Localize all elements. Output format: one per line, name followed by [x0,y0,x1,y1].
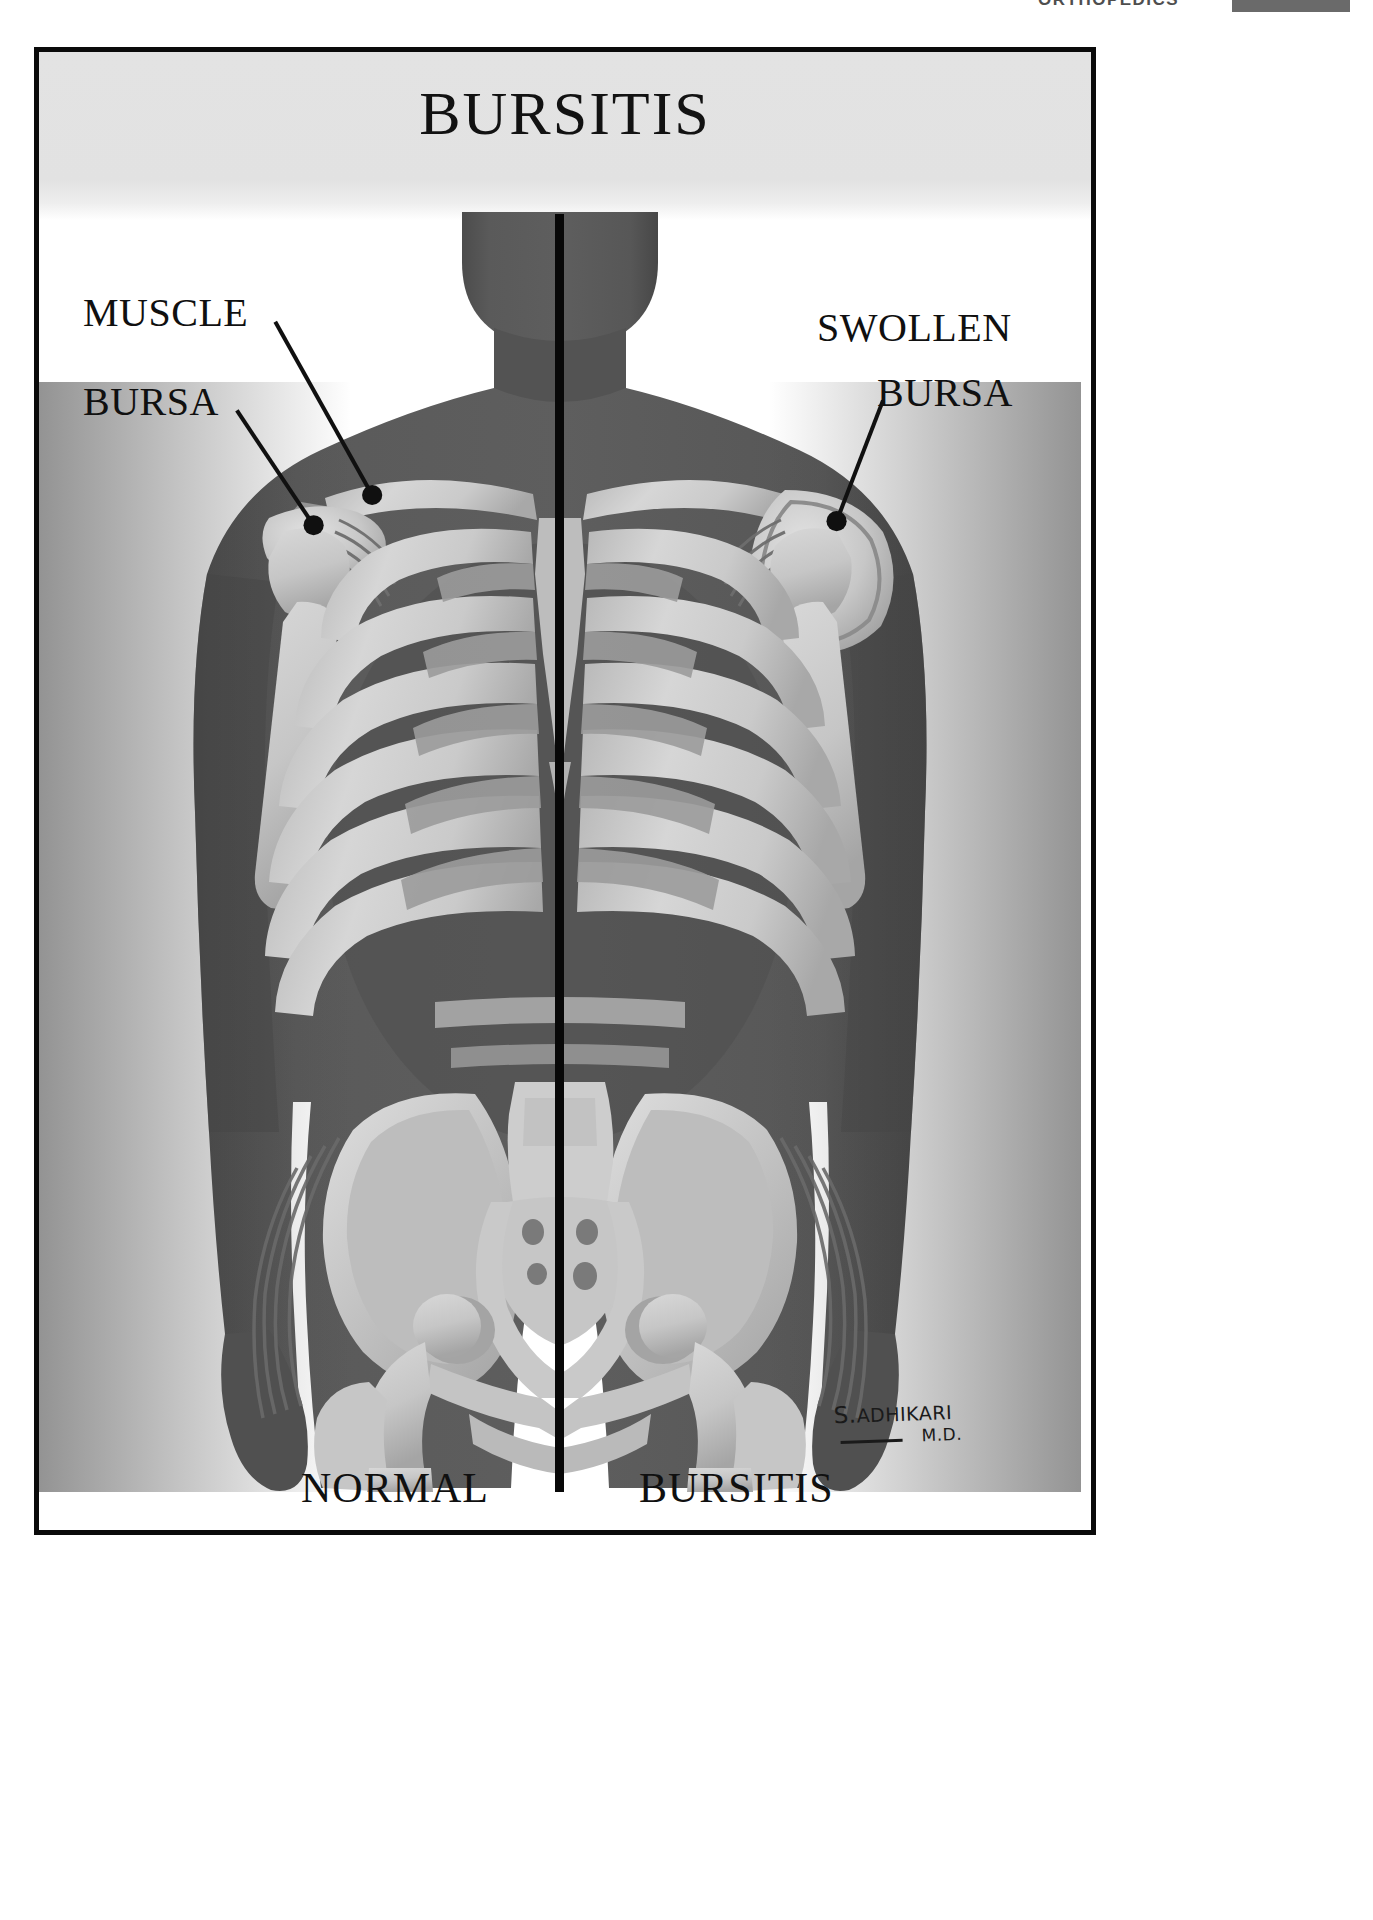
illustration-frame: BURSITIS [34,47,1096,1535]
callout-label-swollen-bursa: BURSA [877,369,1013,416]
page-running-header: ORTHOPEDICS 77 [0,0,1373,26]
artist-signature: S.ADHIKARI M.D. [833,1398,962,1448]
page-title: BURSITIS [39,78,1091,149]
callout-label-bursa: BURSA [83,378,219,425]
title-band: BURSITIS [39,52,1091,220]
signature-surname: ADHIKARI [856,1401,952,1426]
signature-rule [841,1439,903,1444]
caption-bursitis: BURSITIS [639,1464,834,1512]
signature-initial: S. [833,1401,857,1428]
page-number-badge: 77 [1232,0,1350,12]
section-label: ORTHOPEDICS [1038,0,1179,10]
callout-label-muscle: MUSCLE [83,289,248,336]
comparison-divider [555,214,564,1492]
callout-label-swollen: SWOLLEN [817,304,1012,351]
page-number: 77 [1241,0,1258,2]
caption-normal: NORMAL [301,1464,489,1512]
signature-degree: M.D. [921,1424,962,1445]
